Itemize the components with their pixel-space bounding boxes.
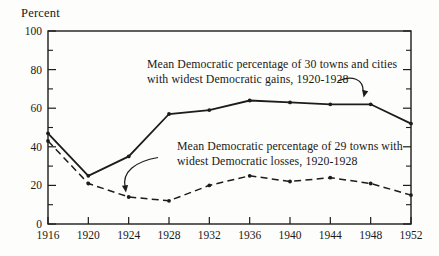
- data-point-marker: [288, 101, 292, 105]
- data-point-marker: [248, 99, 252, 103]
- annotation-losses-arrow: [125, 158, 158, 188]
- data-point-marker: [167, 112, 171, 116]
- annotation-losses-line-1: Mean Democratic percentage of 29 towns w…: [177, 139, 403, 154]
- x-tick-label: 1920: [77, 229, 100, 241]
- data-point-marker: [86, 174, 90, 178]
- annotation-gains-line-1: Mean Democratic percentage of 30 towns a…: [147, 57, 397, 72]
- x-tick-label: 1952: [400, 229, 423, 241]
- y-tick-label: 80: [31, 64, 43, 76]
- x-tick-label: 1924: [117, 229, 140, 241]
- arrowhead: [122, 185, 129, 193]
- data-point-marker: [409, 193, 413, 197]
- data-point-marker: [46, 131, 50, 135]
- annotation-losses: Mean Democratic percentage of 29 towns w…: [177, 139, 403, 168]
- data-point-marker: [127, 155, 131, 159]
- data-point-marker: [167, 199, 171, 203]
- x-tick-label: 1916: [37, 229, 60, 241]
- y-tick-label: 100: [25, 25, 43, 37]
- y-tick-label: 20: [31, 179, 43, 191]
- data-point-marker: [127, 195, 131, 199]
- x-tick-label: 1928: [158, 229, 181, 241]
- data-point-marker: [369, 182, 373, 186]
- y-tick-label: 60: [31, 102, 43, 114]
- y-tick-label: 40: [31, 141, 43, 153]
- data-point-marker: [248, 174, 252, 178]
- data-point-marker: [369, 102, 373, 106]
- x-tick-label: 1936: [238, 229, 261, 241]
- data-point-marker: [409, 122, 413, 126]
- arrowhead: [361, 90, 369, 98]
- x-tick-label: 1948: [359, 229, 382, 241]
- x-tick-label: 1940: [279, 229, 302, 241]
- data-point-marker: [288, 180, 292, 184]
- data-point-marker: [46, 139, 50, 143]
- line-chart: 0204060801001916192019241928193219361940…: [0, 0, 439, 256]
- data-point-marker: [207, 184, 211, 188]
- annotation-gains: Mean Democratic percentage of 30 towns a…: [147, 57, 397, 86]
- data-point-marker: [328, 176, 332, 180]
- annotation-losses-line-2: widest Democratic losses, 1920-1928: [177, 154, 403, 169]
- data-point-marker: [207, 108, 211, 112]
- data-point-marker: [328, 102, 332, 106]
- data-point-marker: [86, 182, 90, 186]
- figure: Percent 02040608010019161920192419281932…: [0, 0, 439, 256]
- x-tick-label: 1944: [319, 229, 342, 241]
- annotation-gains-line-2: with widest Democratic gains, 1920-1928: [147, 72, 397, 87]
- x-tick-label: 1932: [198, 229, 221, 241]
